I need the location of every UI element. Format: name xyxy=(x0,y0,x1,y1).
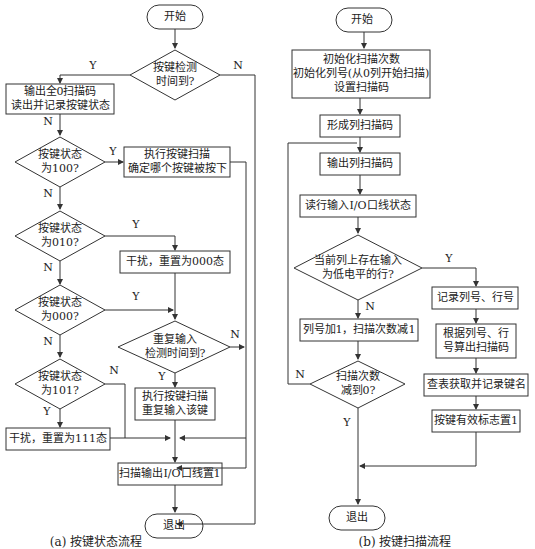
text-line: 输出全0扫描码 xyxy=(11,85,110,99)
flowchart-canvas: 开始 按键检测时间到? 输出全0扫描码读出并记录按键状态 按键状态为100? 执… xyxy=(0,0,535,549)
text-line: 确定哪个按键被按下 xyxy=(128,162,227,176)
text-line: 按键状态 xyxy=(38,148,82,162)
text-line: 重复输入该键 xyxy=(142,404,208,418)
process-output-code: 输出列扫描码 xyxy=(327,157,393,171)
label-yes: Y xyxy=(445,253,452,265)
text-line: 为低电平的行? xyxy=(314,268,402,282)
process-record: 记录列号、行号 xyxy=(437,291,514,305)
text-line: 按键状态 xyxy=(38,370,82,384)
label-yes: Y xyxy=(158,371,165,383)
label-no: N xyxy=(233,60,243,72)
label-no: N xyxy=(365,301,375,313)
label-yes: Y xyxy=(132,219,139,231)
text-line: 执行按键扫描 xyxy=(128,148,227,162)
process-reset-000: 干扰，重置为000态 xyxy=(126,255,224,269)
flowchart-lines xyxy=(0,0,535,549)
decision-state-000: 按键状态为000? xyxy=(38,296,82,324)
text-line: 扫描次数 xyxy=(336,370,380,384)
process-output-io: 扫描输出I/O口线置1 xyxy=(119,467,220,481)
label-yes: Y xyxy=(132,291,139,303)
decision-state-010: 按键状态为010? xyxy=(38,222,82,250)
text-line: 执行按键扫描 xyxy=(142,390,208,404)
text-line: 根据列号、行 xyxy=(443,327,509,341)
text-line: 初始化扫描次数 xyxy=(293,53,430,67)
left-end-terminal: 退出 xyxy=(163,519,185,533)
label-no: N xyxy=(230,329,240,341)
text-line: 设置扫描码 xyxy=(293,81,430,95)
text-line: 减到0? xyxy=(336,384,380,398)
process-flag: 按键有效标志置1 xyxy=(434,414,518,428)
process-init: 初始化扫描次数初始化列号(从0列开始扫描)设置扫描码 xyxy=(293,53,430,95)
label-no: N xyxy=(295,369,305,381)
right-start-terminal: 开始 xyxy=(351,13,373,27)
text-line: 为000? xyxy=(38,310,82,324)
left-start-terminal: 开始 xyxy=(164,10,186,24)
label-no: N xyxy=(43,116,53,128)
decision-check-time: 按键检测时间到? xyxy=(153,61,197,89)
text-line: 按键检测 xyxy=(153,61,197,75)
process-form-code: 形成列扫描码 xyxy=(327,119,393,133)
decision-low-row: 当前列上存在输入为低电平的行? xyxy=(314,254,402,282)
process-exec-repeat: 执行按键扫描重复输入该键 xyxy=(142,390,208,418)
caption-a: (a) 按键状态流程 xyxy=(50,532,142,549)
label-no: N xyxy=(109,365,119,377)
start-label: 开始 xyxy=(164,10,186,23)
text-line: 为010? xyxy=(38,236,82,250)
label-no: N xyxy=(43,188,53,200)
process-read-row: 读行输入I/O口线状态 xyxy=(305,199,410,213)
decision-repeat-time: 重复输入检测时间到? xyxy=(145,333,206,361)
label-yes: Y xyxy=(343,417,350,429)
text-line: 初始化列号(从0列开始扫描) xyxy=(293,67,430,81)
text-line: 按键状态 xyxy=(38,222,82,236)
caption-b: (b) 按键扫描流程 xyxy=(359,532,452,549)
text-line: 为101? xyxy=(38,384,82,398)
decision-state-101: 按键状态为101? xyxy=(38,370,82,398)
text-line: 检测时间到? xyxy=(145,347,206,361)
text-line: 为100? xyxy=(38,162,82,176)
text-line: 时间到? xyxy=(153,75,197,89)
process-calc-code: 根据列号、行号算出扫描码 xyxy=(443,327,509,355)
process-reset-111: 干扰，重置为111态 xyxy=(9,432,107,446)
process-lookup: 查表获取并记录键名 xyxy=(427,378,526,392)
label-yes: Y xyxy=(89,60,96,72)
label-yes: Y xyxy=(109,146,116,158)
process-col-inc: 列号加1，扫描次数减1 xyxy=(303,323,416,337)
text-line: 按键状态 xyxy=(38,296,82,310)
text-line: 号算出扫描码 xyxy=(443,341,509,355)
label-yes: Y xyxy=(43,406,50,418)
process-exec-scan: 执行按键扫描确定哪个按键被按下 xyxy=(128,148,227,176)
text-line: 重复输入 xyxy=(145,333,206,347)
text-line: 读出并记录按键状态 xyxy=(11,99,110,113)
right-end-terminal: 退出 xyxy=(346,511,368,525)
text-line: 当前列上存在输入 xyxy=(314,254,402,268)
label-no: N xyxy=(43,336,53,348)
process-output-zero: 输出全0扫描码读出并记录按键状态 xyxy=(11,85,110,113)
decision-count-zero: 扫描次数减到0? xyxy=(336,370,380,398)
label-no: N xyxy=(43,262,53,274)
decision-state-100: 按键状态为100? xyxy=(38,148,82,176)
